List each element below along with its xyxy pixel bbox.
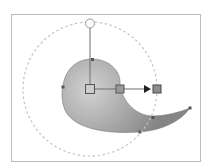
anchor-point[interactable] xyxy=(91,58,94,61)
anchor-point[interactable] xyxy=(189,107,192,110)
center-handle[interactable] xyxy=(86,85,95,94)
gradient-diagram xyxy=(0,0,205,168)
anchor-point[interactable] xyxy=(62,86,65,89)
rotation-handle[interactable] xyxy=(86,19,95,28)
diagram-canvas xyxy=(0,0,205,168)
radius-end-handle[interactable] xyxy=(153,85,161,93)
anchor-point[interactable] xyxy=(152,116,155,119)
focus-handle[interactable] xyxy=(116,85,124,93)
